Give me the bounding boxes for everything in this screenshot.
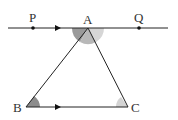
side-ac: [88, 28, 128, 107]
label-a: A: [83, 13, 92, 26]
label-p: P: [29, 11, 36, 24]
arrow-pq-icon: [55, 25, 61, 31]
arrow-bc-icon: [55, 104, 61, 110]
point-p: [31, 26, 35, 30]
geometry-diagram: P A Q B C: [0, 0, 178, 120]
label-q: Q: [134, 11, 143, 24]
label-c: C: [131, 101, 140, 114]
point-q: [137, 26, 141, 30]
side-ab: [26, 28, 88, 107]
label-b: B: [13, 101, 22, 114]
angle-c: [116, 97, 128, 107]
